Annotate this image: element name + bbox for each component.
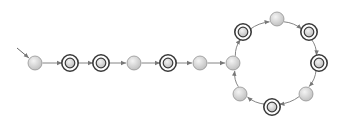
start-arrow: [17, 48, 29, 58]
accepting-state-node: [311, 55, 327, 71]
accepting-state-node: [93, 55, 109, 71]
accepting-state-node: [160, 55, 176, 71]
automaton-diagram: [0, 0, 343, 123]
state-circle: [226, 56, 240, 70]
edges-layer: [43, 22, 317, 104]
state-node: [127, 56, 141, 70]
state-circle: [267, 102, 277, 112]
state-node: [233, 87, 247, 101]
start-arrow-layer: [17, 48, 29, 58]
transition-edge: [235, 71, 239, 87]
state-circle: [233, 87, 247, 101]
state-circle: [127, 56, 141, 70]
state-circle: [314, 58, 324, 68]
transition-edge: [284, 22, 302, 29]
transition-edge: [279, 97, 299, 104]
state-circle: [270, 12, 284, 26]
accepting-state-node: [301, 24, 317, 40]
state-circle: [96, 58, 106, 68]
transition-edge: [235, 40, 240, 56]
state-circle: [65, 58, 75, 68]
state-node: [28, 56, 42, 70]
transition-edge: [250, 22, 270, 29]
state-circle: [163, 58, 173, 68]
state-circle: [238, 27, 248, 37]
accepting-state-node: [264, 99, 280, 115]
accepting-state-node: [235, 24, 251, 40]
nodes-layer: [28, 12, 327, 115]
transition-edge: [309, 70, 316, 87]
state-circle: [193, 56, 207, 70]
transition-edge: [311, 39, 316, 55]
state-circle: [28, 56, 42, 70]
state-node: [193, 56, 207, 70]
transition-edge: [247, 97, 265, 104]
state-circle: [304, 27, 314, 37]
state-node: [299, 87, 313, 101]
state-circle: [299, 87, 313, 101]
state-node: [226, 56, 240, 70]
accepting-state-node: [62, 55, 78, 71]
state-node: [270, 12, 284, 26]
